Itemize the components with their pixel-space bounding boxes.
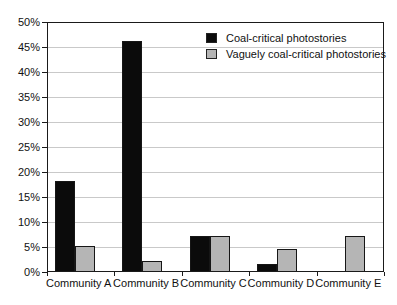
y-tick-label: 35% (4, 91, 40, 103)
y-tick-label: 25% (4, 141, 40, 153)
x-tick-mark (317, 272, 318, 276)
gridline (48, 197, 383, 198)
bar-vaguely-community-e (345, 236, 365, 271)
y-tick-mark (42, 222, 47, 223)
plot-area: Coal-critical photostories Vaguely coal-… (47, 22, 384, 272)
y-tick-mark (42, 172, 47, 173)
bar-coal-critical-community-c (190, 236, 210, 271)
bar-coal-critical-community-b (122, 41, 142, 271)
gridline (48, 147, 383, 148)
bar-chart-figure: Coal-critical photostories Vaguely coal-… (0, 0, 397, 305)
y-tick-mark (42, 247, 47, 248)
legend-label-vaguely-coal-critical: Vaguely coal-critical photostories (226, 48, 386, 60)
y-tick-label: 5% (4, 241, 40, 253)
black-square-swatch-icon (206, 33, 217, 43)
legend: Coal-critical photostories Vaguely coal-… (206, 32, 386, 60)
y-tick-mark (42, 197, 47, 198)
y-tick-label: 10% (4, 216, 40, 228)
y-tick-label: 45% (4, 41, 40, 53)
y-tick-mark (42, 97, 47, 98)
y-tick-mark (42, 72, 47, 73)
y-tick-label: 20% (4, 166, 40, 178)
legend-item-coal-critical: Coal-critical photostories (206, 32, 386, 44)
legend-item-vaguely-coal-critical: Vaguely coal-critical photostories (206, 48, 386, 60)
y-tick-label: 40% (4, 66, 40, 78)
x-category-label: Community E (303, 277, 393, 290)
bar-vaguely-community-d (277, 249, 297, 272)
gray-square-swatch-icon (206, 49, 217, 59)
y-tick-mark (42, 122, 47, 123)
bar-vaguely-community-a (75, 246, 95, 271)
gridline (48, 172, 383, 173)
y-tick-mark (42, 147, 47, 148)
y-tick-mark (42, 47, 47, 48)
x-tick-mark (47, 272, 48, 276)
gridline (48, 72, 383, 73)
y-tick-label: 50% (4, 16, 40, 28)
gridline (48, 122, 383, 123)
legend-label-coal-critical: Coal-critical photostories (226, 32, 346, 44)
bar-vaguely-community-c (210, 236, 230, 271)
x-tick-mark (249, 272, 250, 276)
bar-coal-critical-community-a (55, 181, 75, 271)
gridline (48, 97, 383, 98)
x-tick-mark (182, 272, 183, 276)
y-tick-label: 15% (4, 191, 40, 203)
bar-coal-critical-community-d (257, 264, 277, 272)
x-tick-mark (114, 272, 115, 276)
x-tick-mark (384, 272, 385, 276)
y-tick-label: 30% (4, 116, 40, 128)
gridline (48, 222, 383, 223)
bar-vaguely-community-b (142, 261, 162, 271)
y-tick-mark (42, 22, 47, 23)
